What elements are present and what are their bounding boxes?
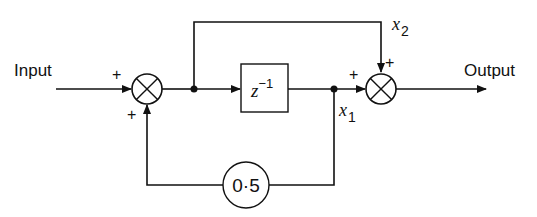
x2-label: x2 (391, 14, 409, 39)
delay-block: z−1 (241, 64, 288, 112)
sum2-delay-sign: + (349, 66, 358, 83)
input-label: Input (14, 61, 52, 80)
block-diagram: Input + + x2 + z−1 + x1 Output 0·5 (0, 0, 537, 217)
feedback-path-left (147, 105, 223, 185)
sum1-feedback-sign: + (127, 106, 136, 123)
summing-junction-2 (366, 74, 396, 104)
x1-label: x1 (338, 100, 356, 125)
summing-junction-1 (132, 74, 162, 104)
output-label: Output (464, 61, 515, 80)
sum1-input-sign: + (112, 66, 121, 83)
gain-block: 0·5 (223, 162, 269, 208)
sum2-bypass-sign: + (385, 54, 394, 71)
gain-label: 0·5 (232, 175, 259, 196)
